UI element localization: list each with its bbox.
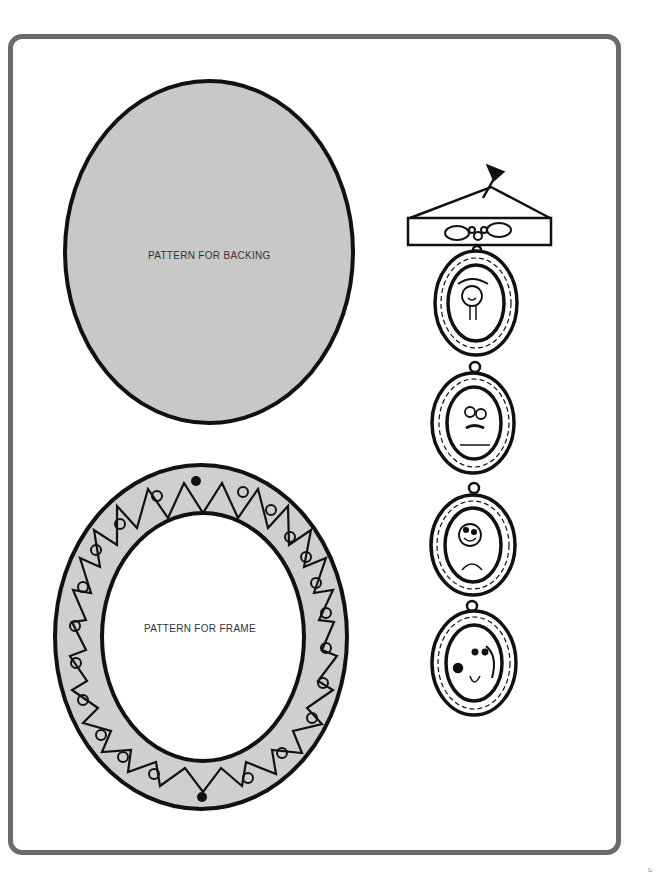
portrait-frame-girl [435, 246, 517, 355]
frame-pattern-label: PATTERN FOR FRAME [144, 623, 256, 634]
hanging-hole-bottom [197, 792, 207, 802]
backing-pattern-label: PATTERN FOR BACKING [148, 250, 271, 261]
hanging-portrait-illustration [408, 166, 551, 715]
portrait-frame-dog [432, 601, 516, 715]
corner-mark: ಲ [648, 866, 653, 874]
portrait-frame-boy [431, 483, 515, 595]
portrait-frame-man [432, 362, 514, 473]
frame-pattern [55, 465, 347, 809]
hanging-hole-top [191, 476, 201, 486]
pattern-artwork [0, 0, 657, 881]
